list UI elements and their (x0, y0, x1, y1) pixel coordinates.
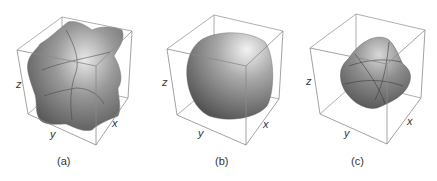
axis-label-z: z (16, 78, 22, 90)
surface-irregular (340, 37, 410, 108)
axis-label-y: y (344, 127, 350, 139)
caption-a: (a) (57, 155, 70, 167)
caption-b: (b) (215, 155, 228, 167)
panel-a: z y x (a) (0, 0, 145, 181)
panel-b: z y x (b) (145, 0, 295, 181)
axis-label-x: x (407, 115, 413, 127)
axis-label-y: y (50, 128, 56, 140)
axis-label-y: y (198, 127, 204, 139)
panel-a-plot (0, 0, 145, 181)
panel-b-plot (145, 0, 295, 181)
panel-c: z y x (c) (295, 0, 437, 181)
panel-c-plot (295, 0, 437, 181)
axis-label-z: z (162, 76, 168, 88)
axis-label-z: z (306, 75, 312, 87)
axis-label-x: x (112, 117, 118, 129)
surface-rounded-cube (187, 33, 273, 119)
surface-star (27, 21, 123, 130)
axis-label-x: x (263, 118, 269, 130)
caption-c: (c) (351, 155, 364, 167)
